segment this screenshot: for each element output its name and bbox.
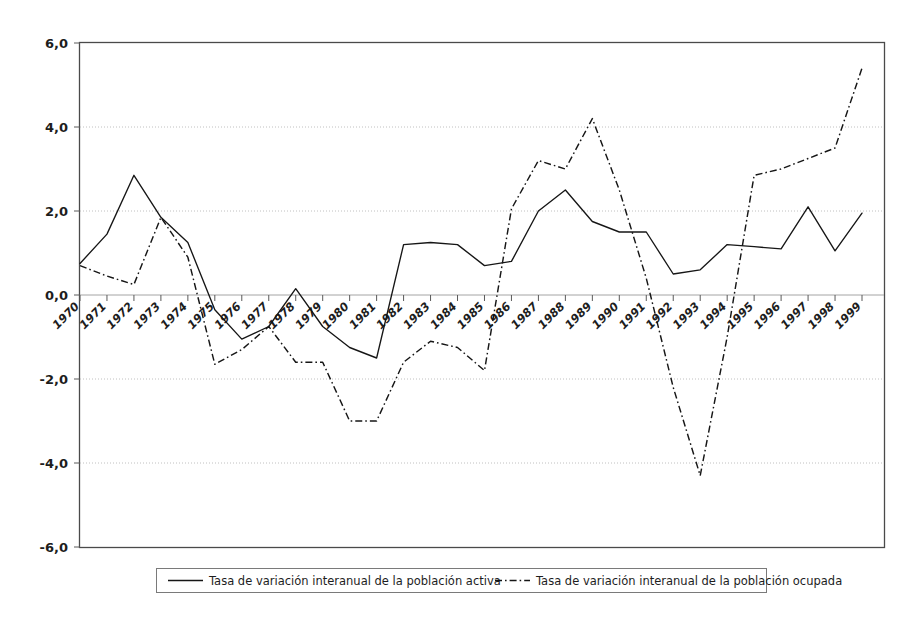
legend-label-activa: Tasa de variación interanual de la pobla… bbox=[208, 574, 501, 588]
chart-legend: Tasa de variación interanual de la pobla… bbox=[157, 569, 843, 593]
chart-figure: 6,04,02,00,0-2,0-4,0-6,0 197019711972197… bbox=[0, 0, 922, 622]
y-axis-tick-label: 4,0 bbox=[45, 120, 68, 135]
y-axis-tick-label: -6,0 bbox=[40, 540, 68, 555]
legend-label-ocupada: Tasa de variación interanual de la pobla… bbox=[535, 574, 842, 588]
y-axis-tick-label: -4,0 bbox=[40, 456, 68, 471]
y-axis-tick-label: -2,0 bbox=[40, 372, 68, 387]
y-axis-tick-label: 0,0 bbox=[45, 288, 68, 303]
line-chart-svg: 6,04,02,00,0-2,0-4,0-6,0 197019711972197… bbox=[0, 0, 922, 622]
y-axis-tick-label: 2,0 bbox=[45, 204, 68, 219]
y-axis-tick-label: 6,0 bbox=[45, 36, 68, 51]
